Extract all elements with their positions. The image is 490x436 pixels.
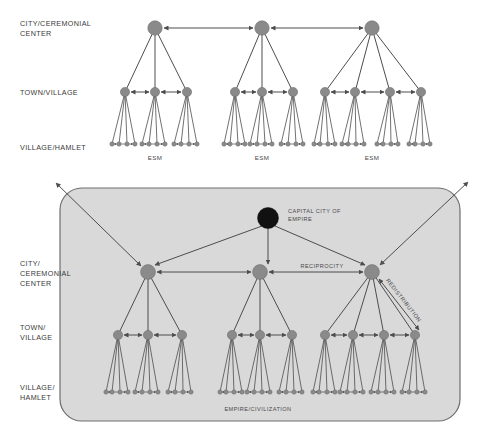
bottom-label-hamlet-line2: HAMLET xyxy=(20,393,52,402)
capital-label-line2: EMPIRE xyxy=(288,216,312,222)
top-label-hamlet: VILLAGE/HAMLET xyxy=(20,143,86,152)
cluster1-city-node xyxy=(148,21,162,35)
bottom-label-town-line1: TOWN/ xyxy=(20,323,46,332)
bcluster3-city-node xyxy=(365,265,380,280)
bottom-label-hamlet-line1: VILLAGE/ xyxy=(20,383,55,392)
bottom-label-town-line2: VILLAGE xyxy=(20,333,52,342)
diagram-canvas: CITY/CEREMONIAL CENTER TOWN/VILLAGE VILL… xyxy=(0,0,490,436)
bcluster1-city-node xyxy=(141,265,156,280)
capital-label-line1: CAPITAL CITY OF xyxy=(288,208,341,214)
top-label-city-line1: CITY/CEREMONIAL xyxy=(20,19,91,28)
capital-city-node xyxy=(258,208,279,229)
cluster3-caption: ESM xyxy=(365,154,380,161)
bcluster2-city-node xyxy=(253,265,268,280)
top-label-city-line2: CENTER xyxy=(20,29,52,38)
settlement-hierarchy-diagram: CITY/CEREMONIAL CENTER TOWN/VILLAGE VILL… xyxy=(0,0,490,436)
reciprocity-label: RECIPROCITY xyxy=(300,263,343,269)
bottom-label-city-line2: CEREMONIAL xyxy=(20,269,71,278)
cluster2-caption: ESM xyxy=(255,154,270,161)
cluster1-caption: ESM xyxy=(148,154,163,161)
top-label-town: TOWN/VILLAGE xyxy=(20,88,78,97)
empire-panel-caption: EMPIRE/CIVILIZATION xyxy=(224,406,291,412)
bottom-label-city-line1: CITY/ xyxy=(20,259,40,268)
bottom-label-city-line3: CENTER xyxy=(20,279,52,288)
cluster3-city-node xyxy=(365,21,379,35)
cluster2-city-node xyxy=(255,21,269,35)
